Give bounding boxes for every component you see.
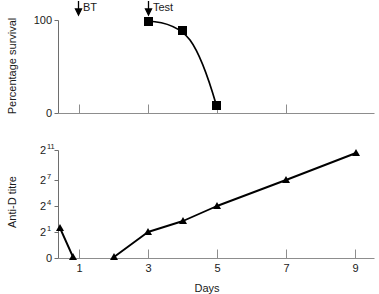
y-tick-base-2-7: 2 [40,174,46,186]
y-tick-base-2-11: 2 [40,144,46,156]
anti-d-marker-day9 [352,149,360,156]
x-tick-label-5: 5 [214,262,220,274]
bt-label: BT [83,1,97,13]
survival-marker-day5 [212,101,221,110]
down-arrow-head-bt [76,9,82,15]
y-tick-label-100: 100 [34,14,52,26]
figure-container: Percentage survival 100 0 BT [0,0,379,294]
x-tick-label-9: 9 [352,262,358,274]
y-tick-label-2-4: 2 4 [40,198,51,212]
y-tick-exp-2-1: 1 [47,224,51,233]
y-axis-title-titre: Anti-D titre [6,176,18,228]
x-tick-label-1: 1 [76,262,82,274]
survival-marker-day3 [144,17,153,26]
down-arrow-head-test [146,9,152,15]
x-tick-label-7: 7 [283,262,289,274]
anti-d-marker-day0 [56,224,64,231]
y-tick-base-2-4: 2 [40,200,46,212]
x-axis-title-days: Days [194,282,220,294]
y-axis-title-survival: Percentage survival [6,18,18,115]
y-tick-exp-2-7: 7 [47,172,51,181]
anti-d-falling-line [60,228,73,257]
test-annotation: Test [146,1,174,15]
x-tick-label-3: 3 [145,262,151,274]
bt-annotation: BT [76,1,98,15]
y-tick-label-0-titre: 0 [46,252,52,264]
y-tick-label-0: 0 [46,107,52,119]
y-tick-exp-2-11: 11 [47,142,55,151]
y-tick-base-2-1: 2 [40,226,46,238]
y-tick-label-2-1: 2 1 [40,224,51,238]
test-label: Test [153,1,173,13]
y-tick-exp-2-4: 4 [47,198,51,207]
survival-marker-day4 [178,26,187,35]
anti-d-marker-day07 [69,253,77,260]
anti-d-rising-line [114,153,356,257]
anti-d-titre-chart: Anti-D titre 2 11 2 7 2 4 2 1 0 [0,130,379,294]
y-tick-label-2-7: 2 7 [40,172,51,186]
y-tick-label-2-11: 2 11 [40,142,55,156]
percentage-survival-chart: Percentage survival 100 0 BT [0,0,379,130]
